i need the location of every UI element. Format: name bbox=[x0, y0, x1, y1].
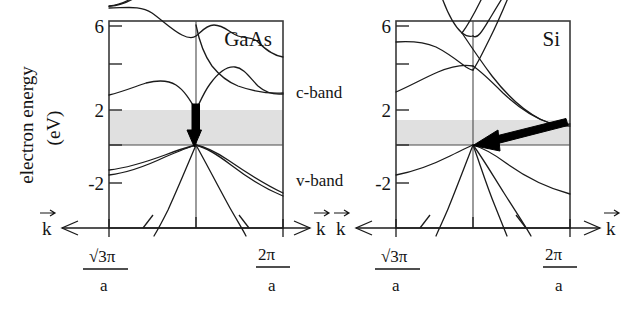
gaas-curve-c1-left bbox=[109, 81, 196, 110]
si-ytick-6: 6 bbox=[382, 16, 392, 37]
si-curve-v4 bbox=[436, 145, 473, 236]
c-band-label: c-band bbox=[296, 83, 343, 102]
si-k-symbols: k k bbox=[334, 210, 619, 239]
y-axis-label-group: electron energy (eV) bbox=[16, 66, 65, 184]
si-k-left-denominator: a bbox=[392, 276, 400, 295]
si-curve-v1 bbox=[396, 145, 570, 194]
gaas-curve-c1-right bbox=[196, 67, 283, 110]
band-structure-figure: electron energy (eV) c-band v-band 6 2 bbox=[0, 0, 642, 315]
si-y-ticks bbox=[396, 26, 409, 183]
si-k-left-numerator: √3π bbox=[381, 247, 408, 266]
panel-gaas: 6 2 -2 bbox=[40, 0, 329, 295]
gaas-k-axis bbox=[62, 215, 310, 237]
si-ytick-2: 2 bbox=[382, 100, 392, 121]
si-k-left-symbol: k bbox=[336, 218, 346, 239]
si-ytick-minus2: -2 bbox=[375, 173, 391, 194]
y-axis-label-line1: electron energy bbox=[16, 66, 37, 184]
gaas-k-left-numerator: √3π bbox=[89, 247, 116, 266]
si-k-right-vector-arrow bbox=[604, 210, 619, 216]
gaas-y-tick-labels: 6 2 -2 bbox=[88, 16, 104, 194]
gaas-k-right-numerator: 2π bbox=[258, 245, 276, 264]
si-k-right-numerator: 2π bbox=[545, 245, 563, 264]
si-k-left-fraction: √3π a bbox=[375, 247, 420, 295]
gaas-k-symbols: k k bbox=[40, 210, 329, 239]
si-curve-c2-up bbox=[462, 0, 489, 33]
gaas-k-left-fraction: √3π a bbox=[83, 247, 128, 295]
y-axis-label-line2: (eV) bbox=[43, 111, 65, 146]
band-labels-group: c-band v-band bbox=[296, 83, 344, 190]
si-y-tick-labels: 6 2 -2 bbox=[375, 16, 391, 194]
gaas-ytick-6: 6 bbox=[95, 16, 105, 37]
figure-canvas: electron energy (eV) c-band v-band 6 2 bbox=[0, 0, 642, 315]
gaas-y-ticks bbox=[109, 26, 122, 183]
gaas-k-left-denominator: a bbox=[100, 276, 108, 295]
si-k-axis bbox=[356, 215, 600, 237]
gaas-k-right-symbol: k bbox=[316, 218, 326, 239]
si-k-right-symbol: k bbox=[606, 218, 616, 239]
gaas-k-left-vector-arrow bbox=[40, 210, 55, 216]
gaas-k-right-fraction: 2π a bbox=[256, 245, 290, 295]
si-k-right-fraction: 2π a bbox=[543, 245, 577, 295]
gaas-k-left-symbol: k bbox=[42, 218, 52, 239]
si-panel-title: Si bbox=[542, 27, 560, 51]
si-k-left-vector-arrow bbox=[334, 210, 349, 216]
si-curve-c1-left bbox=[396, 65, 473, 92]
gaas-k-right-denominator: a bbox=[268, 276, 276, 295]
v-band-label: v-band bbox=[296, 171, 344, 190]
si-curve-c1-right bbox=[473, 66, 570, 125]
gaas-ytick-minus2: -2 bbox=[88, 173, 104, 194]
panel-si: 6 2 -2 bbox=[334, 0, 619, 295]
si-k-right-denominator: a bbox=[555, 276, 563, 295]
gaas-panel-title: GaAs bbox=[224, 27, 272, 51]
gaas-ytick-2: 2 bbox=[95, 100, 105, 121]
gaas-curve-c4 bbox=[109, 0, 170, 6]
gaas-curve-v3 bbox=[196, 145, 246, 236]
gaas-k-right-vector-arrow bbox=[314, 210, 329, 216]
si-curve-c4-left bbox=[441, 0, 473, 36]
